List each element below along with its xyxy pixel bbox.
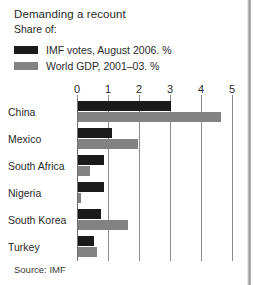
category-label: South Korea [8, 214, 66, 226]
tick-mark-4 [201, 95, 202, 99]
bar [78, 166, 90, 176]
source-note: Source: IMF [14, 264, 66, 275]
legend-item-imf-votes: IMF votes, August 2006. % [14, 43, 171, 57]
chart-subtitle: Share of: [14, 23, 57, 35]
category-label: China [8, 106, 35, 118]
bar [78, 128, 112, 138]
chart-figure: Demanding a recount Share of: IMF votes,… [0, 0, 254, 285]
x-tick-label: 3 [167, 83, 173, 95]
category-label: Nigeria [8, 187, 41, 199]
bar [78, 220, 128, 230]
tick-mark-0 [77, 95, 78, 99]
category-label: South Africa [8, 160, 65, 172]
x-tick-label: 2 [136, 83, 142, 95]
x-tick-label: 0 [74, 83, 80, 95]
bar [78, 209, 101, 219]
bar [78, 139, 138, 149]
legend-label-series-2: World GDP, 2001–03. % [46, 60, 159, 72]
gridline-2 [139, 99, 140, 261]
gridline-5 [232, 99, 233, 261]
category-label: Turkey [8, 241, 40, 253]
x-tick-label: 5 [229, 83, 235, 95]
tick-mark-3 [170, 95, 171, 99]
legend-item-world-gdp: World GDP, 2001–03. % [14, 59, 171, 73]
page-edge-outer [251, 0, 254, 285]
chart-title: Demanding a recount [14, 8, 126, 20]
category-label: Mexico [8, 133, 41, 145]
tick-mark-5 [232, 95, 233, 99]
gridline-3 [170, 99, 171, 261]
plot-area: 012345 [77, 99, 232, 261]
chart-legend: IMF votes, August 2006. % World GDP, 200… [14, 43, 171, 75]
bar [78, 236, 94, 246]
category-axis-labels: ChinaMexicoSouth AfricaNigeriaSouth Kore… [8, 99, 72, 261]
bar [78, 155, 104, 165]
bar [78, 247, 97, 257]
legend-swatch-series-2 [14, 62, 38, 70]
legend-swatch-series-1 [14, 46, 38, 54]
gridline-4 [201, 99, 202, 261]
legend-label-series-1: IMF votes, August 2006. % [46, 44, 171, 56]
x-tick-label: 4 [198, 83, 204, 95]
tick-mark-1 [108, 95, 109, 99]
bar [78, 182, 104, 192]
gridline-1 [108, 99, 109, 261]
bar [78, 193, 81, 203]
bar [78, 101, 171, 111]
tick-mark-2 [139, 95, 140, 99]
bar [78, 112, 221, 122]
x-tick-label: 1 [105, 83, 111, 95]
